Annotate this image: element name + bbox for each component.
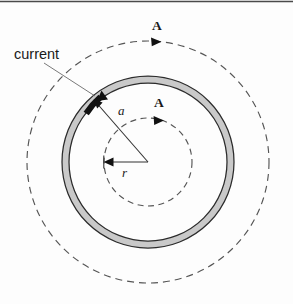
radius-a-label: a bbox=[118, 103, 125, 118]
current-label: current bbox=[14, 46, 59, 62]
inner-loop-direction-arrowhead bbox=[154, 116, 164, 125]
field-label-inner: A bbox=[154, 95, 164, 110]
radius-r-label: r bbox=[122, 165, 128, 180]
physics-figure: current A A a r bbox=[0, 0, 293, 304]
outer-loop-direction-arrowhead bbox=[151, 37, 162, 46]
radius-r-arrowhead bbox=[104, 158, 114, 167]
current-leader-line bbox=[44, 63, 95, 96]
diagram-canvas: current A A a r bbox=[0, 0, 293, 304]
field-label-outer: A bbox=[152, 18, 162, 33]
